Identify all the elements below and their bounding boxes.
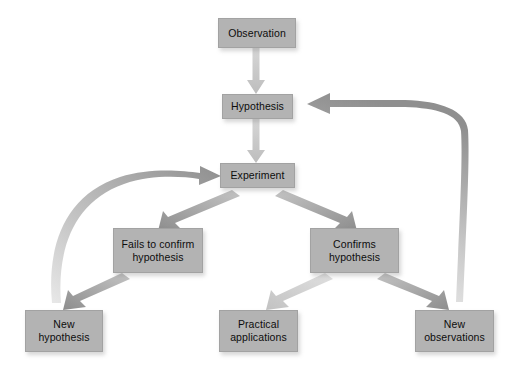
node-new-observations-label: New observations: [418, 318, 491, 344]
node-new-hypothesis-line1: New: [35, 318, 92, 331]
node-new-hypothesis-label: New hypothesis: [32, 318, 95, 344]
node-confirms-label: Confirms hypothesis: [323, 238, 386, 264]
node-practical-applications[interactable]: Practical applications: [219, 310, 298, 352]
node-experiment-label: Experiment: [227, 169, 287, 182]
node-hypothesis[interactable]: Hypothesis: [222, 94, 293, 119]
node-confirms-line2: hypothesis: [326, 251, 383, 264]
node-new-observations-line2: observations: [421, 331, 488, 344]
node-practical-line2: applications: [227, 331, 290, 344]
node-confirms-line1: Confirms: [326, 238, 383, 251]
edge-experiment-to-confirms: [275, 190, 357, 231]
node-fails-line1: Fails to confirm: [119, 238, 198, 251]
node-observation[interactable]: Observation: [218, 18, 296, 48]
node-hypothesis-label: Hypothesis: [228, 100, 287, 113]
node-experiment[interactable]: Experiment: [220, 163, 295, 188]
node-practical-line1: Practical: [227, 318, 290, 331]
node-confirms-hypothesis[interactable]: Confirms hypothesis: [310, 228, 399, 273]
node-fails-to-confirm-hypothesis[interactable]: Fails to confirm hypothesis: [113, 228, 203, 273]
node-practical-label: Practical applications: [224, 318, 293, 344]
edge-confirms-to-practical: [266, 273, 333, 310]
edge-fails-to-new-hypothesis: [63, 273, 130, 310]
node-new-observations-line1: New: [421, 318, 488, 331]
node-fails-line2: hypothesis: [119, 251, 198, 264]
node-fails-label: Fails to confirm hypothesis: [116, 238, 201, 264]
node-new-observations[interactable]: New observations: [415, 310, 494, 352]
node-observation-label: Observation: [225, 27, 289, 40]
node-new-hypothesis-line2: hypothesis: [35, 331, 92, 344]
scientific-method-flowchart: Observation Hypothesis Experiment Fails …: [0, 0, 515, 373]
edge-confirms-to-new-observations: [377, 273, 449, 310]
node-new-hypothesis[interactable]: New hypothesis: [25, 310, 103, 352]
edge-hypothesis-to-experiment: [247, 119, 265, 163]
edge-observation-to-hypothesis: [247, 48, 265, 94]
edge-experiment-to-fails: [158, 190, 240, 231]
